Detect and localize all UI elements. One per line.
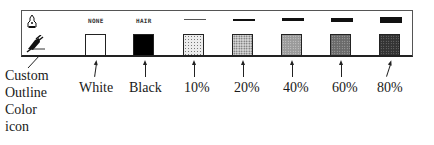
- arrow-40: [292, 64, 293, 77]
- label-20: 20%: [234, 80, 260, 96]
- callout-line: [0, 0, 434, 145]
- arrow-20: [243, 64, 244, 77]
- label-80: 80%: [377, 80, 403, 96]
- custom-outline-color-callout: Custom Outline Color icon: [5, 67, 49, 135]
- label-40: 40%: [283, 80, 309, 96]
- callout-line-2: Outline: [5, 84, 49, 101]
- label-10: 10%: [184, 80, 210, 96]
- label-white: White: [79, 80, 113, 96]
- callout-line-1: Custom: [5, 67, 49, 84]
- label-black: Black: [129, 80, 162, 96]
- label-60: 60%: [332, 80, 358, 96]
- arrow-60: [341, 64, 342, 77]
- arrow-10: [194, 64, 195, 77]
- arrow-black: [145, 64, 146, 77]
- callout-line-3: Color: [5, 101, 49, 118]
- callout-line-4: icon: [5, 118, 49, 135]
